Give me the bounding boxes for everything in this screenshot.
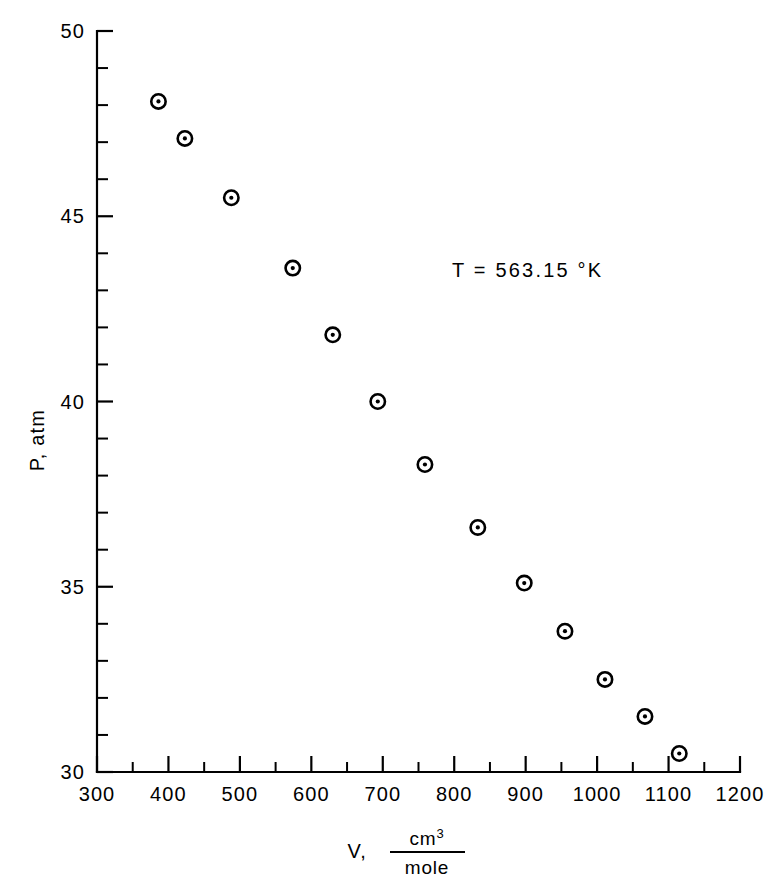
marker-center-dot	[156, 99, 160, 103]
x-tick-label: 800	[436, 783, 473, 805]
x-tick-label: 600	[293, 783, 330, 805]
marker-center-dot	[563, 629, 567, 633]
marker-center-dot	[643, 714, 647, 718]
y-axis-title: P, atm	[26, 409, 48, 471]
y-tick-label: 45	[61, 205, 85, 227]
y-tick-label: 50	[61, 20, 85, 42]
y-tick-label: 40	[61, 391, 85, 413]
marker-center-dot	[522, 581, 526, 585]
pv-isotherm-scatter-chart: 3035404550 30040050060070080090010001100…	[0, 0, 783, 890]
chart-figure: 3035404550 30040050060070080090010001100…	[0, 0, 783, 890]
marker-center-dot	[603, 677, 607, 681]
x-axis-title-variable: V,	[348, 840, 367, 862]
marker-center-dot	[229, 196, 233, 200]
x-tick-label: 300	[79, 783, 116, 805]
marker-center-dot	[183, 136, 187, 140]
marker-center-dot	[476, 525, 480, 529]
chart-background	[0, 0, 783, 890]
marker-center-dot	[677, 751, 681, 755]
marker-center-dot	[291, 266, 295, 270]
temperature-annotation: T = 563.15 °K	[452, 259, 603, 281]
x-tick-label: 1200	[716, 783, 765, 805]
marker-center-dot	[331, 333, 335, 337]
x-tick-label: 700	[364, 783, 401, 805]
y-tick-label: 35	[61, 576, 85, 598]
marker-center-dot	[423, 462, 427, 466]
x-tick-label: 1100	[645, 783, 692, 805]
x-tick-label: 1000	[573, 783, 622, 805]
x-tick-label: 900	[507, 783, 544, 805]
x-axis-title-denominator: mole	[405, 857, 449, 878]
x-tick-label: 500	[222, 783, 259, 805]
x-tick-label: 400	[150, 783, 187, 805]
y-tick-label: 30	[61, 761, 85, 783]
marker-center-dot	[376, 399, 380, 403]
